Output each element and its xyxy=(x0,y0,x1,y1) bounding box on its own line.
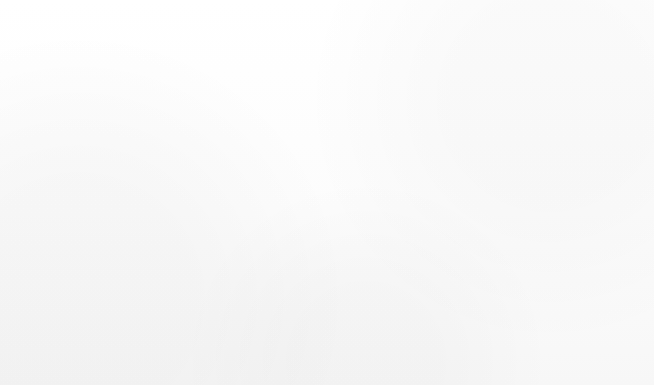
bar-total-all-occupations: 11% xyxy=(334,20,578,107)
chart-figure: 11% -3% -3% Total, All Occupations Agric… xyxy=(0,0,654,385)
bar-value-label: 11% xyxy=(541,58,578,70)
zero-axis-line xyxy=(332,7,334,333)
category-label-total-all-occupations: Total, All Occupations xyxy=(33,62,156,77)
bar-farming-fishing-forestry-occupations: -3% xyxy=(266,240,333,326)
footnote-source: Source: U.S. Bureau of Labor Statistics,… xyxy=(21,358,641,375)
footnote-note: Note: All Occupations includes all occup… xyxy=(21,341,641,358)
footnote-divider xyxy=(6,331,654,333)
category-label-farming-fishing-forestry: Farming, Fishing, and Forestry Occupatio… xyxy=(33,274,156,304)
category-label-agricultural-workers: Agricultural Workers xyxy=(45,168,162,183)
bar-value-label: -3% xyxy=(266,277,297,289)
bar-agricultural-workers: -3% xyxy=(266,133,333,216)
footnotes: Note: All Occupations includes all occup… xyxy=(21,341,641,375)
bar-value-label: -3% xyxy=(266,169,297,181)
